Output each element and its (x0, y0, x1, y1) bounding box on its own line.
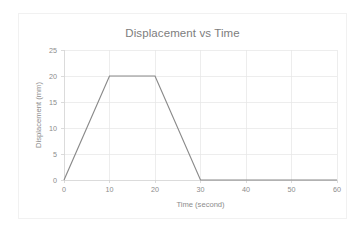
x-tick-label-10: 10 (106, 185, 114, 194)
y-tick-label-20: 20 (49, 72, 57, 81)
chart-figure: Displacement vs Time (18, 13, 347, 219)
y-tick-label-25: 25 (49, 46, 57, 55)
x-tick-label-20: 20 (151, 185, 159, 194)
y-axis-title: Displacement (mm) (34, 82, 43, 148)
x-tick-label-50: 50 (288, 185, 296, 194)
y-axis-tick-marks (61, 50, 64, 180)
x-tick-label-0: 0 (62, 185, 66, 194)
y-tick-label-15: 15 (49, 98, 57, 107)
y-axis-tick-labels: 25 20 15 10 5 0 (49, 46, 57, 185)
chart-plot: 25 20 15 10 5 0 0 10 20 30 40 50 60 Time… (19, 14, 348, 220)
x-axis-tick-labels: 0 10 20 30 40 50 60 (62, 185, 341, 194)
y-tick-label-5: 5 (53, 150, 57, 159)
vertical-gridlines (110, 50, 338, 180)
x-tick-label-30: 30 (197, 185, 205, 194)
y-tick-label-10: 10 (49, 124, 57, 133)
x-axis-title: Time (second) (176, 200, 225, 209)
y-tick-label-0: 0 (53, 176, 57, 185)
x-tick-label-60: 60 (333, 185, 341, 194)
x-tick-label-40: 40 (242, 185, 250, 194)
